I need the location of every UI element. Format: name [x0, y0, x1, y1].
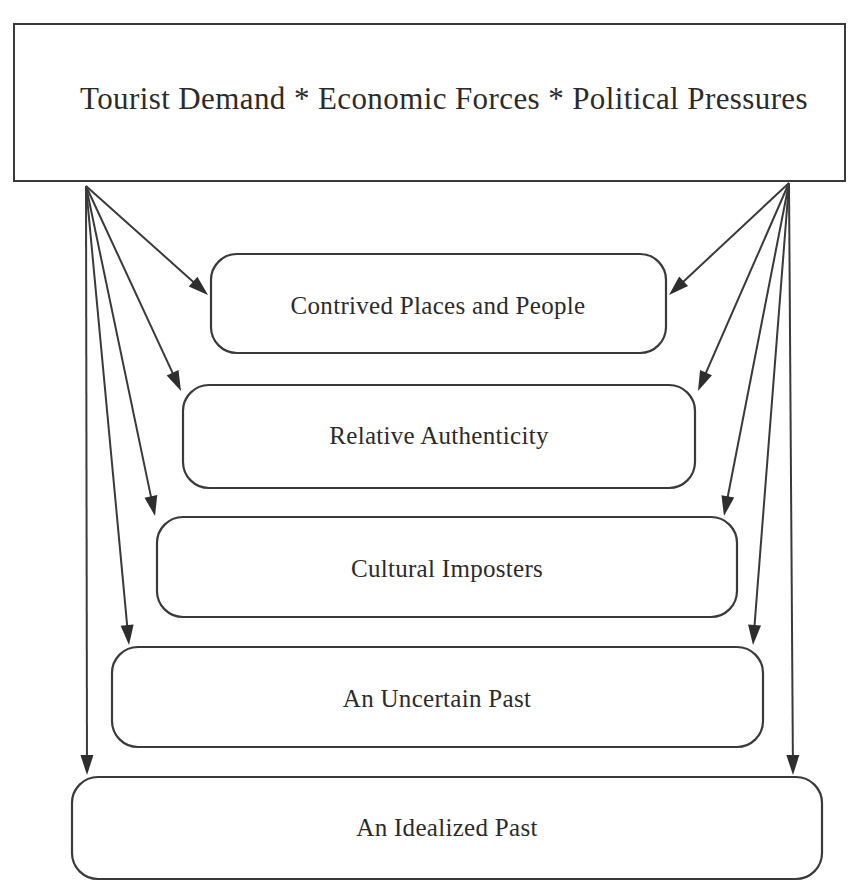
arrowhead-header-right-to-idealized [786, 755, 799, 775]
connector-line-header-left-to-imposters [86, 186, 152, 499]
connector-header-left-to-imposters [86, 186, 157, 516]
arrowhead-header-right-to-uncertain [748, 625, 761, 645]
nodes-layer: Tourist Demand * Economic Forces * Polit… [14, 24, 845, 879]
arrowhead-header-left-to-relative [167, 370, 181, 391]
connector-header-left-to-uncertain [86, 186, 134, 645]
node-label-an-uncertain-past: An Uncertain Past [343, 685, 531, 712]
connector-line-header-right-to-imposters [727, 183, 789, 499]
node-label-an-idealized-past: An Idealized Past [356, 814, 537, 841]
diagram-canvas: Tourist Demand * Economic Forces * Polit… [0, 0, 859, 891]
node-label-relative-authenticity: Relative Authenticity [329, 422, 549, 449]
connector-header-left-to-relative [86, 186, 181, 391]
arrowhead-header-right-to-imposters [721, 495, 734, 516]
node-an-idealized-past[interactable]: An Idealized Past [72, 777, 822, 879]
connector-line-header-left-to-idealized [86, 186, 87, 758]
connector-header-left-to-idealized [80, 186, 93, 775]
node-an-uncertain-past[interactable]: An Uncertain Past [112, 647, 763, 747]
connector-line-header-right-to-idealized [789, 183, 793, 758]
node-contrived-places-and-people[interactable]: Contrived Places and People [211, 254, 666, 353]
diagram-root: Tourist Demand * Economic Forces * Polit… [0, 0, 859, 891]
arrowhead-header-right-to-relative [698, 370, 712, 391]
header-box-label: Tourist Demand * Economic Forces * Polit… [80, 81, 808, 116]
arrowhead-header-left-to-idealized [80, 755, 93, 775]
node-forces-header[interactable]: Tourist Demand * Economic Forces * Polit… [14, 24, 845, 181]
node-relative-authenticity[interactable]: Relative Authenticity [183, 385, 695, 488]
connector-header-left-to-contrived [86, 186, 208, 295]
node-cultural-imposters[interactable]: Cultural Imposters [157, 517, 737, 617]
node-label-cultural-imposters: Cultural Imposters [351, 555, 543, 582]
arrowhead-header-left-to-imposters [145, 495, 158, 516]
node-label-contrived-places-and-people: Contrived Places and People [291, 292, 586, 319]
connector-line-header-left-to-uncertain [86, 186, 127, 628]
connector-line-header-left-to-relative [86, 186, 174, 376]
connector-header-right-to-imposters [721, 183, 789, 516]
connector-header-right-to-idealized [786, 183, 799, 775]
arrowhead-header-left-to-uncertain [121, 624, 134, 645]
connector-header-right-to-uncertain [748, 183, 789, 645]
